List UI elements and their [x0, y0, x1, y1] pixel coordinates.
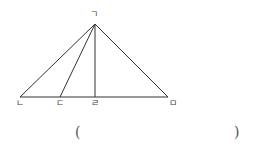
label-mid: ㄷ: [56, 99, 64, 108]
segment-apex-left: [20, 24, 95, 97]
segment-apex-right: [95, 24, 168, 97]
segment-apex-mid: [60, 24, 95, 97]
answer-open-paren: (: [75, 125, 80, 139]
label-foot: ㄹ: [91, 99, 99, 108]
label-apex: ㄱ: [90, 10, 98, 19]
answer-close-paren: ): [234, 125, 239, 139]
label-right: ㅁ: [169, 99, 177, 108]
answer-blank[interactable]: [86, 125, 230, 141]
label-left: ㄴ: [16, 99, 24, 108]
